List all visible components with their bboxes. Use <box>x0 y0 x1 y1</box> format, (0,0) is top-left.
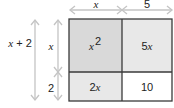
left-inner-arrows <box>54 20 62 100</box>
left-inner-label-2: 2 <box>48 82 54 94</box>
area-model-diagram: x 5 x + 2 x 2 x2 5x 2x 10 <box>0 0 174 108</box>
top-label-5: 5 <box>144 0 150 10</box>
left-outer-label: x + 2 <box>7 37 32 49</box>
cell-bottom-left-label: 2x <box>89 81 100 93</box>
left-outer-arrow <box>31 20 39 100</box>
left-inner-label-x: x <box>48 40 54 52</box>
cell-top-right-label: 5x <box>141 40 152 52</box>
top-dimension-arrows <box>70 6 172 14</box>
cell-bottom-right-label: 10 <box>141 81 153 93</box>
top-label-x: x <box>93 0 99 10</box>
